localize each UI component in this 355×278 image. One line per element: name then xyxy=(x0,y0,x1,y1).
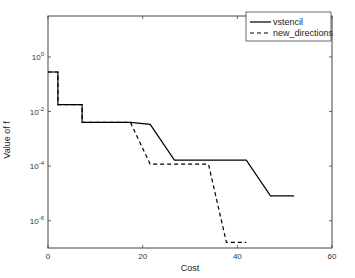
y-axis-label: Value of f xyxy=(2,121,12,159)
y-tick-label: 10-4 xyxy=(30,160,45,171)
x-tick-label: 60 xyxy=(328,252,337,261)
plot-area xyxy=(48,16,332,248)
legend: vstencilnew_directions xyxy=(246,12,334,41)
x-tick-label: 0 xyxy=(46,252,51,261)
legend-label: vstencil xyxy=(273,17,303,27)
x-axis-label: Cost xyxy=(181,263,200,273)
x-tick-label: 20 xyxy=(138,252,147,261)
y-tick-label: 10-6 xyxy=(30,215,45,226)
y-tick-label: 100 xyxy=(32,51,45,62)
legend-label: new_directions xyxy=(273,28,334,38)
y-tick-label: 10-2 xyxy=(30,106,45,117)
chart: 0204060 10010-210-410-6 Cost Value of f … xyxy=(0,0,355,278)
x-tick-label: 40 xyxy=(233,252,242,261)
